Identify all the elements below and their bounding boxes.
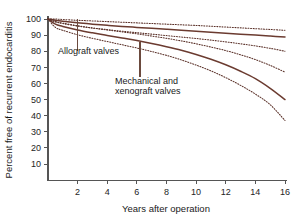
chart-container: 100908070605040302010 246810121416 Perce… — [0, 0, 303, 222]
x-tick-label: 2 — [75, 187, 80, 197]
y-tick-marks — [44, 19, 48, 164]
annotation-allograft-valves: Allograft valves — [58, 46, 120, 56]
y-tick-label: 50 — [31, 95, 41, 105]
y-tick-label: 80 — [31, 46, 41, 56]
annotation-mechanical-line2: xenograft valves — [115, 86, 181, 96]
y-tick-label: 70 — [31, 63, 41, 73]
annotation-mechanical-line1: Mechanical and — [115, 76, 178, 86]
y-tick-label: 30 — [31, 127, 41, 137]
y-tick-label: 10 — [31, 159, 41, 169]
axis-lines — [48, 16, 287, 180]
y-tick-label: 40 — [31, 111, 41, 121]
x-tick-label: 10 — [191, 187, 201, 197]
y-tick-label: 100 — [26, 14, 41, 24]
y-tick-label: 90 — [31, 30, 41, 40]
x-tick-label: 16 — [280, 187, 290, 197]
x-tick-marks — [78, 180, 285, 184]
x-axis-title: Years after operation — [122, 203, 210, 214]
data-curves — [48, 19, 285, 121]
y-tick-label: 60 — [31, 79, 41, 89]
curve-allograft-valves — [48, 19, 285, 37]
endocarditis-survival-chart: 100908070605040302010 246810121416 Perce… — [0, 0, 303, 222]
y-tick-labels: 100908070605040302010 — [26, 14, 41, 169]
x-tick-label: 6 — [134, 187, 139, 197]
y-tick-label: 20 — [31, 143, 41, 153]
x-tick-label: 12 — [221, 187, 231, 197]
x-tick-label: 14 — [250, 187, 260, 197]
x-tick-labels: 246810121416 — [75, 187, 290, 197]
x-tick-label: 4 — [105, 187, 110, 197]
x-tick-label: 8 — [164, 187, 169, 197]
y-axis-title: Percent free of recurrent endocarditis — [3, 21, 14, 178]
